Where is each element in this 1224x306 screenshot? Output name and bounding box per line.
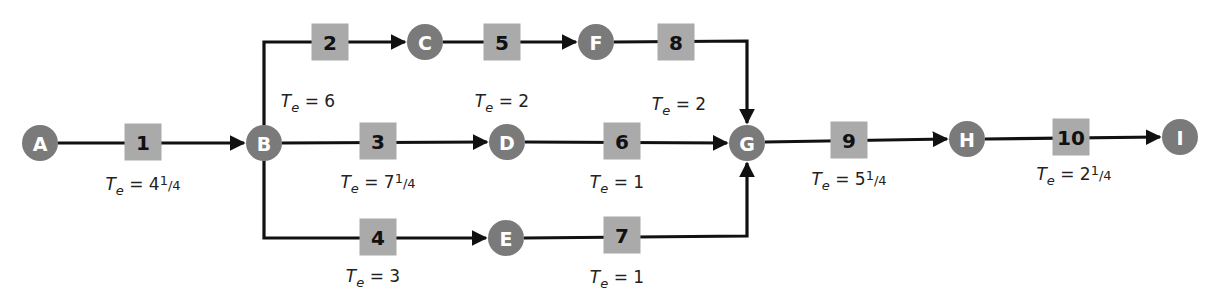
- node-letter: H: [959, 129, 975, 151]
- te-whole: 2: [1080, 164, 1091, 184]
- activity-number: 10: [1057, 126, 1085, 150]
- activity-number: 7: [615, 224, 629, 248]
- te-subscript: e: [600, 181, 608, 196]
- activity-number: 5: [495, 31, 509, 55]
- activity-number: 1: [136, 131, 150, 155]
- te-subscript: e: [485, 100, 493, 115]
- event-node-c: C: [407, 24, 443, 60]
- node-letter: E: [500, 228, 513, 250]
- te-label-2: Te = 6: [281, 91, 335, 115]
- node-letter: A: [33, 133, 48, 155]
- te-subscript: e: [662, 103, 670, 118]
- activity-box-2: 2: [312, 24, 349, 61]
- te-equals: =: [608, 267, 633, 287]
- pert-network-diagram: 12345678910 ABCDEFGHI Te = 41/4Te = 6Te …: [0, 0, 1224, 306]
- activity-number: 3: [371, 130, 385, 154]
- te-frac-den: /4: [874, 173, 887, 188]
- te-label-5: Te = 2: [475, 91, 529, 115]
- te-label-4: Te = 3: [346, 266, 400, 290]
- te-frac-num: 1: [395, 171, 403, 186]
- te-whole: 4: [149, 174, 160, 194]
- te-whole: 2: [695, 94, 706, 114]
- activity-box-10: 10: [1053, 119, 1090, 156]
- te-subscript: e: [356, 275, 364, 290]
- te-subscript: e: [351, 181, 359, 196]
- node-letter: G: [739, 133, 755, 155]
- te-whole: 6: [324, 91, 335, 111]
- te-frac-num: 1: [1091, 163, 1099, 178]
- te-whole: 1: [633, 267, 644, 287]
- te-equals: =: [830, 169, 855, 189]
- te-whole: 3: [389, 266, 400, 286]
- te-label-6: Te = 1: [590, 172, 644, 196]
- te-equals: =: [608, 172, 633, 192]
- event-node-e: E: [488, 220, 524, 256]
- te-label-3: Te = 71/4: [340, 171, 415, 196]
- activity-box-9: 9: [831, 122, 868, 159]
- te-equals: =: [1055, 164, 1080, 184]
- activity-number: 6: [615, 130, 629, 154]
- activity-box-7: 7: [604, 217, 641, 254]
- activity-box-3: 3: [360, 123, 397, 160]
- activity-number: 4: [371, 226, 385, 250]
- te-frac-num: 1: [866, 168, 874, 183]
- te-equals: =: [124, 174, 149, 194]
- activity-box-8: 8: [658, 24, 695, 61]
- te-label-1: Te = 41/4: [105, 173, 180, 198]
- te-whole: 1: [633, 172, 644, 192]
- node-letter: I: [1176, 127, 1183, 149]
- te-equals: =: [299, 91, 324, 111]
- te-frac-den: /4: [168, 178, 181, 193]
- te-frac-num: 1: [160, 173, 168, 188]
- te-equals: =: [493, 91, 518, 111]
- activity-box-1: 1: [125, 124, 162, 161]
- activity-number: 9: [842, 129, 856, 153]
- te-whole: 7: [384, 172, 395, 192]
- te-subscript: e: [291, 100, 299, 115]
- activity-box-5: 5: [484, 24, 521, 61]
- node-letter: C: [418, 32, 432, 54]
- activity-box-6: 6: [604, 123, 641, 160]
- te-subscript: e: [1047, 173, 1055, 188]
- event-node-b: B: [246, 125, 282, 161]
- te-subscript: e: [822, 178, 830, 193]
- te-label-10: Te = 21/4: [1036, 163, 1111, 188]
- te-equals: =: [670, 94, 695, 114]
- node-letter: D: [499, 132, 515, 154]
- event-node-f: F: [578, 24, 614, 60]
- te-frac-den: /4: [403, 176, 416, 191]
- te-equals: =: [359, 172, 384, 192]
- te-label-8: Te = 2: [652, 94, 706, 118]
- te-whole: 2: [518, 91, 529, 111]
- te-label-9: Te = 51/4: [811, 168, 886, 193]
- te-equals: =: [364, 266, 389, 286]
- te-frac-den: /4: [1099, 168, 1112, 183]
- node-letter: B: [257, 133, 271, 155]
- event-node-d: D: [489, 124, 525, 160]
- activity-box-4: 4: [360, 219, 397, 256]
- event-node-h: H: [949, 121, 985, 157]
- te-subscript: e: [600, 276, 608, 291]
- event-node-g: G: [729, 125, 765, 161]
- te-subscript: e: [116, 183, 124, 198]
- te-label-7: Te = 1: [590, 267, 644, 291]
- te-labels-layer: Te = 41/4Te = 6Te = 71/4Te = 3Te = 2Te =…: [105, 91, 1111, 291]
- te-whole: 5: [855, 169, 866, 189]
- node-letter: F: [590, 32, 603, 54]
- activity-number: 8: [669, 31, 683, 55]
- event-node-a: A: [22, 125, 58, 161]
- event-node-i: I: [1162, 119, 1198, 155]
- activity-number: 2: [323, 31, 337, 55]
